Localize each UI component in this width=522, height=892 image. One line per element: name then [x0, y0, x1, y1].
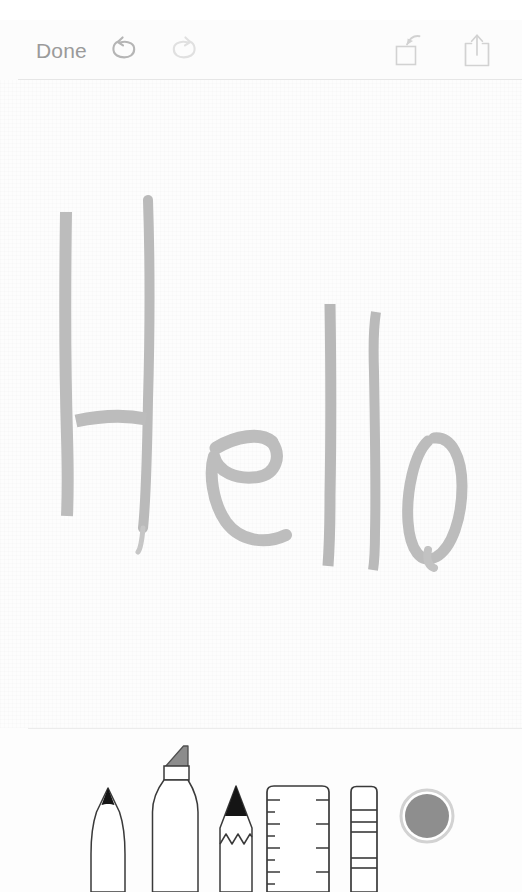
top-toolbar: Done [0, 20, 522, 80]
drawing-markup-screen: Done [0, 0, 522, 892]
tool-pen[interactable] [72, 772, 144, 892]
square-with-arrow-icon [394, 32, 428, 68]
pen-tip-icon [72, 772, 144, 892]
tool-eraser[interactable] [336, 774, 392, 892]
eraser-icon [336, 774, 392, 892]
drawing-canvas[interactable] [0, 80, 522, 728]
share-button[interactable] [462, 31, 492, 69]
tool-marker[interactable] [138, 734, 212, 892]
marker-chisel-icon [138, 734, 212, 892]
tool-color-swatch[interactable] [396, 774, 458, 892]
undo-button[interactable] [109, 35, 143, 65]
redo-button[interactable] [165, 35, 199, 65]
undo-arrow-icon [109, 35, 143, 65]
color-swatch-icon [396, 774, 458, 892]
done-button[interactable]: Done [36, 40, 87, 61]
status-bar-strip [0, 0, 522, 20]
tool-ruler[interactable] [258, 774, 338, 892]
tool-palette [0, 729, 522, 892]
toolbar-right-group [394, 20, 492, 80]
share-up-arrow-icon [462, 31, 492, 69]
handwritten-drawing [0, 80, 522, 728]
drawing-strokes [65, 200, 462, 570]
redo-arrow-icon [165, 35, 199, 65]
toolbar-left-group: Done [36, 20, 199, 80]
insert-markup-button[interactable] [394, 32, 428, 68]
ruler-icon [258, 774, 338, 892]
